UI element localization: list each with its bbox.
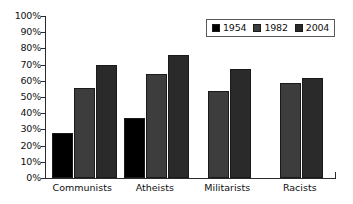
y-axis-tick-mark: [41, 32, 45, 33]
y-axis-tick-label: 40%: [3, 108, 41, 118]
y-axis-tick-label: 80%: [3, 43, 41, 53]
y-axis-labels: 100%90%80%70%60%50%40%30%20%10%0%: [0, 0, 41, 204]
bar-chart: 100%90%80%70%60%50%40%30%20%10%0% 195419…: [0, 0, 353, 204]
x-axis-category-label: Militarists: [191, 182, 264, 194]
x-axis-end-cap: [335, 172, 336, 179]
y-axis-tick-mark: [41, 113, 45, 114]
y-axis-tick-mark: [41, 129, 45, 130]
y-axis-tick-mark: [41, 146, 45, 147]
bar-racists-1982: [280, 83, 301, 178]
bar-atheists-1982: [146, 74, 167, 178]
bar-group: [46, 16, 119, 178]
legend-item-1954: 1954: [212, 23, 246, 33]
x-axis-category-label: Atheists: [119, 182, 192, 194]
y-axis-tick-mark: [41, 48, 45, 49]
legend-item-1982: 1982: [253, 23, 287, 33]
y-axis-tick-mark: [41, 178, 45, 179]
y-axis-tick-label: 30%: [3, 124, 41, 134]
y-axis-tick-mark: [41, 97, 45, 98]
x-axis-line: [45, 178, 336, 179]
legend-label: 1954: [223, 23, 246, 33]
plot-area: [46, 16, 336, 178]
bar-racists-2004: [302, 78, 323, 178]
legend-label: 1982: [264, 23, 287, 33]
y-axis-tick-label: 50%: [3, 92, 41, 102]
bar-communists-2004: [96, 65, 117, 178]
y-axis-tick-mark: [41, 65, 45, 66]
x-axis-category-label: Communists: [46, 182, 119, 194]
bar-communists-1982: [74, 88, 95, 178]
bar-atheists-1954: [124, 118, 145, 178]
chart-legend: 195419822004: [206, 19, 335, 37]
bar-group: [191, 16, 264, 178]
bar-group: [119, 16, 192, 178]
y-axis-tick-label: 60%: [3, 76, 41, 86]
y-axis-tick-label: 100%: [3, 11, 41, 21]
bar-militarists-1982: [208, 91, 229, 178]
bar-militarists-2004: [230, 69, 251, 178]
y-axis-tick-label: 20%: [3, 141, 41, 151]
bar-group: [264, 16, 337, 178]
legend-swatch-1954: [212, 24, 220, 32]
y-axis-tick-mark: [41, 162, 45, 163]
bar-communists-1954: [52, 133, 73, 178]
legend-label: 2004: [306, 23, 329, 33]
y-axis-tick-label: 10%: [3, 157, 41, 167]
bar-atheists-2004: [168, 55, 189, 178]
y-axis-tick-mark: [41, 16, 45, 17]
y-axis-tick-label: 0%: [3, 173, 41, 183]
legend-item-2004: 2004: [295, 23, 329, 33]
legend-swatch-1982: [253, 24, 261, 32]
legend-swatch-2004: [295, 24, 303, 32]
x-axis-category-label: Racists: [264, 182, 337, 194]
y-axis-tick-mark: [41, 81, 45, 82]
y-axis-tick-label: 90%: [3, 27, 41, 37]
y-axis-tick-label: 70%: [3, 60, 41, 70]
